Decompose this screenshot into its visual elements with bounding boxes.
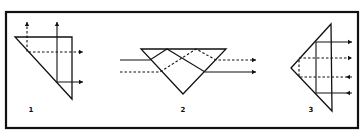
arrowhead-icon <box>25 22 29 26</box>
arrowhead-icon <box>348 56 352 60</box>
prism <box>15 37 72 99</box>
arrowhead-icon <box>252 70 256 74</box>
arrowhead-icon <box>346 91 350 95</box>
arrowhead-icon <box>348 40 352 44</box>
arrowhead-icon <box>79 50 83 54</box>
solid-ray <box>316 42 352 93</box>
prism <box>291 24 332 111</box>
figure-2: 2 <box>120 49 256 114</box>
figure-label: 3 <box>309 106 314 114</box>
figure-3: 3 <box>291 24 352 114</box>
figure-label: 2 <box>181 106 186 114</box>
figure-label: 1 <box>29 106 34 114</box>
arrowhead-icon <box>79 80 83 84</box>
prism-diagram: 123 <box>0 0 364 134</box>
arrowhead-icon <box>252 58 256 62</box>
arrowhead-icon <box>346 75 350 79</box>
solid-ray <box>120 49 256 72</box>
figure-1: 1 <box>15 22 83 114</box>
dashed-ray <box>299 58 352 77</box>
arrowhead-icon <box>55 22 59 26</box>
